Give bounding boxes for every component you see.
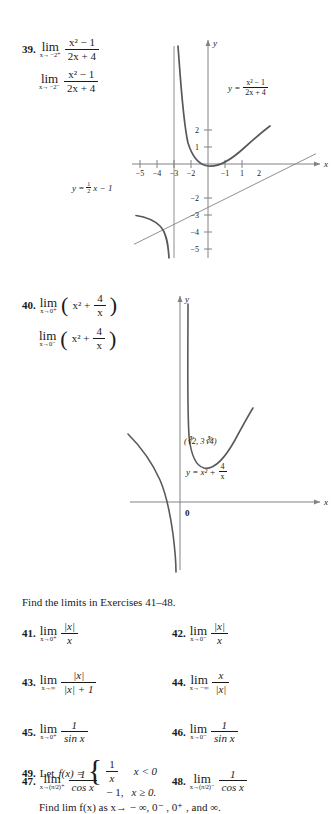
- limit-operator: limx→0⁺: [40, 722, 57, 741]
- curve-left-branch: [128, 434, 176, 572]
- exercise-49-lead: Let: [40, 758, 55, 779]
- fraction-denominator: x: [94, 306, 106, 319]
- y-axis-label: y: [184, 294, 189, 304]
- limit-fraction: x|x|: [212, 669, 229, 695]
- exercise-49-closing: Find lim f(x) as x→ − ∞, 0⁻ , 0⁺ , and ∞…: [39, 801, 221, 814]
- exercise-49-case-1: 1 x x < 0: [106, 758, 157, 784]
- fraction-numerator: 1: [106, 758, 118, 772]
- x-axis-arrow: [314, 162, 320, 167]
- limit-fraction: |x||x| + 1: [61, 669, 96, 695]
- lim-subscript: x→0⁻: [190, 636, 207, 643]
- limit-fraction: |x|x: [211, 620, 228, 646]
- exercise-number: 42.: [172, 627, 186, 639]
- asymptote-label-half: 1 2: [86, 181, 91, 194]
- exercise-49-fx: f(x) =: [58, 758, 83, 779]
- curve-label-lhs: y = x² +: [186, 467, 216, 477]
- fraction-numerator: 4: [94, 292, 106, 306]
- lim-subscript: x→0⁻: [190, 734, 207, 741]
- exercise-39-line-1: 39. lim x→ −2⁺ x² − 1 2x + 4: [22, 36, 99, 62]
- limit-fraction: 1sin x: [61, 719, 87, 745]
- x-axis-label: x: [323, 497, 328, 507]
- exercise-49-number: 49.: [22, 758, 36, 779]
- fraction-numerator: x² − 1: [64, 68, 98, 82]
- curve-label-fraction: 4 x: [219, 462, 227, 481]
- limit-fraction: |x|x: [61, 620, 78, 646]
- x-tick-1: 1: [240, 169, 244, 178]
- fraction-denominator: x: [211, 634, 228, 647]
- limit-operator: limx→0⁻: [190, 722, 207, 741]
- y-tick--4: −4: [190, 228, 199, 237]
- fraction-numerator: 1: [219, 768, 247, 782]
- x-tick--5: −5: [136, 169, 145, 178]
- exercise-number: 43.: [22, 676, 36, 688]
- exercise-number: 41.: [22, 627, 36, 639]
- exercise-44: 44.limx→ −∞x|x|: [172, 669, 322, 695]
- fraction-denominator: x: [93, 339, 105, 352]
- fraction-numerator: |x|: [61, 620, 78, 634]
- origin-label: 0: [185, 508, 190, 518]
- exercise-40-line-2: lim x→0⁻ ( x² + 4 x ): [39, 325, 117, 351]
- exercise-41: 41.limx→0⁺|x|x: [22, 620, 172, 646]
- x-tick--1: −1: [221, 169, 230, 178]
- exercise-number: 45.: [22, 726, 36, 738]
- y-tick-1: 1: [195, 143, 199, 152]
- x-tick--2: −2: [187, 169, 196, 178]
- exercise-40-limit-1-operator: lim x→0⁺: [40, 296, 57, 315]
- exercise-49-body: 49. Let f(x) = { 1 x x < 0 − 1, x ≥ 0.: [22, 758, 221, 798]
- figure-40-svg: 0 x y: [120, 284, 332, 574]
- fraction-denominator: |x|: [212, 683, 229, 696]
- fraction-denominator: |x| + 1: [61, 683, 96, 696]
- open-paren: (: [60, 330, 67, 348]
- lim-subscript: x→∞: [40, 685, 57, 692]
- asymptote-label-rest: x − 1: [93, 183, 112, 193]
- asymptote-label-lhs: y =: [72, 183, 84, 193]
- lim-subscript: x→0⁻: [39, 341, 56, 348]
- exercise-39-limit-1-operator: lim x→ −2⁺: [40, 40, 61, 59]
- limit-operator: limx→0⁺: [40, 624, 57, 643]
- exercise-39-line-2: lim x→ −2⁻ x² − 1 2x + 4: [39, 68, 99, 94]
- exercises-instruction: Find the limits in Exercises 41–48.: [22, 596, 175, 608]
- lim-subscript: x→0⁺: [40, 636, 57, 643]
- exercise-40-limit-2-fraction: 4 x: [93, 325, 105, 351]
- x-axis-label: x: [323, 159, 328, 169]
- figure-39-curve-label: y = x² − 1 2x + 4: [228, 78, 268, 97]
- case-1-condition: x < 0: [134, 765, 157, 777]
- figure-39-graph: −5 −4 −3 −2 −1 1 2 2 1 −2 −3 −4 −5 x y y…: [120, 26, 332, 266]
- figure-39-asymptote-label: y = 1 2 x − 1: [72, 181, 112, 194]
- exercise-43: 43.limx→∞|x||x| + 1: [22, 669, 172, 695]
- y-tick--2: −2: [190, 194, 199, 203]
- case-2-condition: x ≥ 0.: [131, 786, 156, 798]
- x-tick--4: −4: [153, 169, 162, 178]
- lim-subscript: x→0⁺: [40, 308, 57, 315]
- exercise-39-limit-2-operator: lim x→ −2⁻: [39, 72, 60, 91]
- close-paren: ): [110, 296, 117, 314]
- exercise-40-limit-2-operator: lim x→0⁻: [39, 329, 56, 348]
- exercise-39-limit-1-fraction: x² − 1 2x + 4: [65, 36, 99, 62]
- exercise-40: 40. lim x→0⁺ ( x² + 4 x ) lim x→0⁻ ( x² …: [22, 292, 117, 352]
- curve-label-lhs: y =: [228, 83, 240, 93]
- y-axis-arrow: [206, 40, 211, 46]
- fraction-denominator: 2x + 4: [64, 82, 98, 95]
- case-2-value: − 1,: [106, 786, 123, 798]
- lim-subscript: x→ −2⁺: [40, 52, 61, 59]
- curve-right-branch: [178, 46, 270, 166]
- fraction-numerator: 4: [219, 462, 227, 472]
- exercise-40-expr-lead: x² +: [72, 299, 90, 311]
- lim-subscript: x→ −∞: [190, 685, 209, 692]
- exercise-46: 46.limx→0⁻1sin x: [172, 719, 322, 745]
- fraction-denominator: 2: [86, 188, 91, 194]
- y-tick-2: 2: [195, 126, 199, 135]
- fraction-numerator: |x|: [211, 620, 228, 634]
- y-tick--3: −3: [190, 211, 199, 220]
- fraction-denominator: cos x: [219, 781, 247, 794]
- x-tick-labels: −5 −4 −3 −2 −1 1 2: [136, 169, 261, 178]
- x-axis-arrow: [314, 500, 320, 505]
- fraction-numerator: |x|: [61, 669, 96, 683]
- figure-40-graph: 0 x y (∛2, 3∛4) y = x² + 4 x: [120, 284, 332, 574]
- limit-fraction: 1sin x: [211, 719, 237, 745]
- limit-operator: limx→∞: [40, 673, 57, 692]
- limit-operator: limx→ −∞: [190, 673, 209, 692]
- exercise-39-limit-2-fraction: x² − 1 2x + 4: [64, 68, 98, 94]
- figure-39-svg: −5 −4 −3 −2 −1 1 2 2 1 −2 −3 −4 −5 x y: [120, 26, 332, 266]
- fraction-numerator: 1: [211, 719, 237, 733]
